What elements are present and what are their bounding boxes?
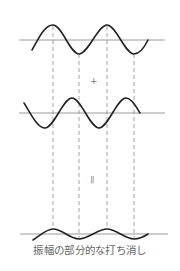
wave-superposition-figure: + || 振幅の部分的な打ち消し — [0, 0, 180, 271]
figure-caption: 振幅の部分的な打ち消し — [0, 242, 180, 257]
plus-operator: + — [90, 77, 98, 86]
superposition-diagram — [0, 0, 180, 271]
equals-operator: || — [90, 176, 93, 184]
